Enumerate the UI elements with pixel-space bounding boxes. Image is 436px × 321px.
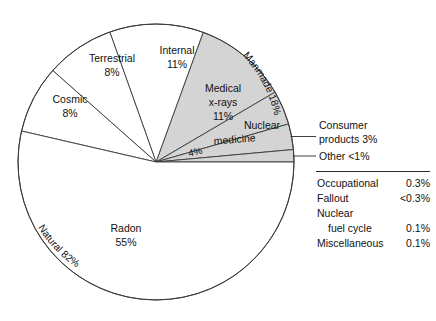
label-cosmic-name: Cosmic xyxy=(52,93,87,105)
breakdown-row-value: <0.3% xyxy=(400,192,430,204)
breakdown-table: Occupational 0.3% Fallout <0.3% Nuclear … xyxy=(317,177,430,249)
callout-other: Other <1% xyxy=(319,150,370,162)
pie-chart-figure: Radon 55% Cosmic 8% Terrestrial 8% Inter… xyxy=(0,0,436,321)
label-medical-name: Medical xyxy=(205,82,241,94)
label-internal-name: Internal xyxy=(159,44,194,56)
breakdown-row-label: Miscellaneous xyxy=(317,237,384,249)
label-nuclear-name: Nuclear xyxy=(244,119,281,131)
label-medical-name2: x-rays xyxy=(209,96,238,108)
label-internal-value: 11% xyxy=(167,58,187,70)
breakdown-row-value: 0.3% xyxy=(406,177,430,189)
callout-labels: Consumer products 3% Other <1% xyxy=(319,119,377,162)
breakdown-row-label: fuel cycle xyxy=(328,222,372,234)
breakdown-row-label: Occupational xyxy=(317,177,378,189)
label-cosmic-value: 8% xyxy=(62,107,77,119)
breakdown-row-label: Nuclear xyxy=(317,207,354,219)
breakdown-row-value: 0.1% xyxy=(406,237,430,249)
pie-chart-svg: Radon 55% Cosmic 8% Terrestrial 8% Inter… xyxy=(0,0,436,321)
label-radon-value: 55% xyxy=(115,236,136,248)
label-medical-value: 11% xyxy=(213,110,233,122)
callout-consumer-line2: products 3% xyxy=(319,133,377,145)
label-terrestrial-name: Terrestrial xyxy=(89,52,135,64)
label-radon-name: Radon xyxy=(111,222,142,234)
breakdown-row-label: Fallout xyxy=(317,192,349,204)
callout-consumer-line1: Consumer xyxy=(319,119,368,131)
breakdown-row-value: 0.1% xyxy=(406,222,430,234)
label-terrestrial-value: 8% xyxy=(104,66,119,78)
